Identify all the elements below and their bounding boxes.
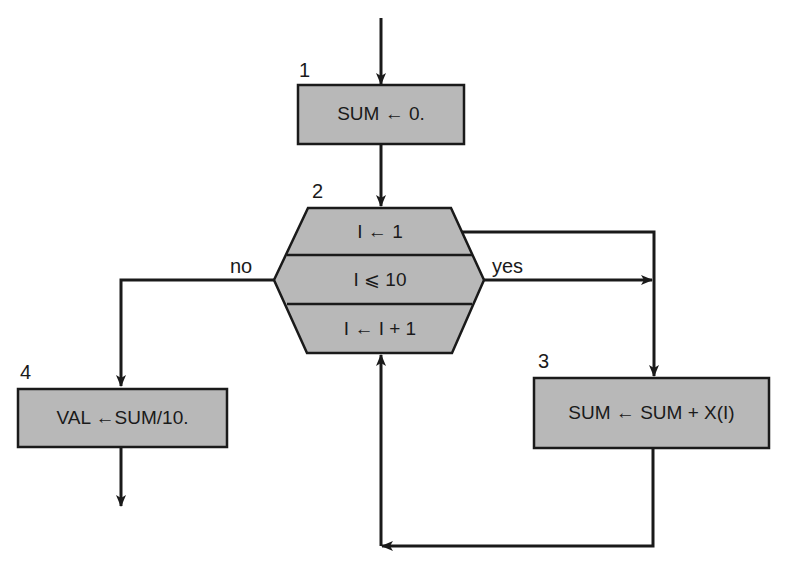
node-number-3: 3 <box>538 351 549 371</box>
loop-init-text: I ← 1 <box>290 222 470 241</box>
no-arrow <box>121 280 274 386</box>
node-number-1: 1 <box>299 60 310 80</box>
process-text-4: VAL ←SUM/10. <box>18 408 227 427</box>
return-loop-line <box>382 449 653 546</box>
loop-test-text: I ⩽ 10 <box>290 270 470 289</box>
node-number-4: 4 <box>20 362 31 382</box>
loop-increment-text: I ← I + 1 <box>290 319 470 338</box>
process-text-1: SUM ← 0. <box>298 104 464 123</box>
edge-label-yes: yes <box>492 256 523 276</box>
edge-label-no: no <box>230 256 252 276</box>
node-number-2: 2 <box>312 181 323 201</box>
hexagon-top-right-line <box>462 232 654 376</box>
process-text-3: SUM ← SUM + X(I) <box>534 403 769 422</box>
